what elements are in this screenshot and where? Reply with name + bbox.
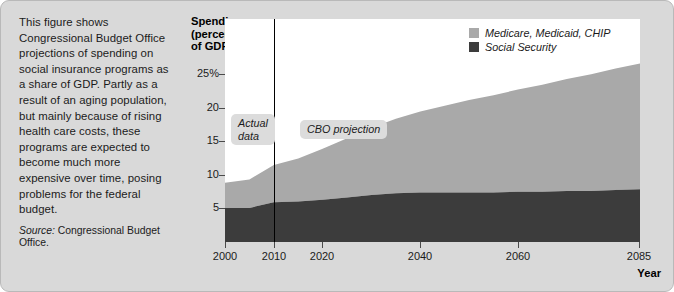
y-label-20: 20 [159, 101, 219, 113]
source-label: Source: [19, 225, 55, 236]
legend-item-medicare: Medicare, Medicaid, CHIP [469, 27, 610, 39]
y-label-25: 25% [159, 67, 219, 79]
area-medicare-medicaid-chip [225, 64, 640, 208]
x-tick-2000 [225, 242, 226, 248]
legend-swatch-icon-social-security [469, 42, 479, 52]
y-label-5: 5 [159, 201, 219, 213]
legend-label-medicare: Medicare, Medicaid, CHIP [485, 27, 610, 39]
x-label-2040: 2040 [408, 250, 432, 262]
source-note: Source: Congressional Budget Office. [19, 225, 171, 250]
caption-text: This figure shows Congressional Budget O… [19, 15, 171, 218]
x-label-2060: 2060 [506, 250, 530, 262]
chart-block: Spending (percent of GDP) 25% 20 15 10 5… [191, 9, 661, 285]
legend-swatch-icon-medicare [469, 28, 479, 38]
caption-block: This figure shows Congressional Budget O… [19, 15, 171, 250]
legend-label-social-security: Social Security [485, 41, 556, 53]
y-label-10: 10 [159, 168, 219, 180]
x-axis-title: Year [637, 267, 661, 279]
legend: Medicare, Medicaid, CHIP Social Security [469, 27, 610, 53]
figure-container: This figure shows Congressional Budget O… [0, 0, 674, 292]
annotation-cbo-projection: CBO projection [300, 120, 387, 139]
x-tick-2010 [274, 242, 275, 248]
x-label-2085: 2085 [627, 250, 651, 262]
x-tick-2085 [639, 242, 640, 248]
x-label-2010: 2010 [262, 250, 286, 262]
x-label-2000: 2000 [213, 250, 237, 262]
legend-item-social-security: Social Security [469, 41, 610, 53]
y-label-15: 15 [159, 134, 219, 146]
x-tick-2060 [518, 242, 519, 248]
x-tick-2020 [322, 242, 323, 248]
x-tick-2040 [420, 242, 421, 248]
annotation-actual-data: Actual data [231, 114, 275, 145]
x-label-2020: 2020 [310, 250, 334, 262]
